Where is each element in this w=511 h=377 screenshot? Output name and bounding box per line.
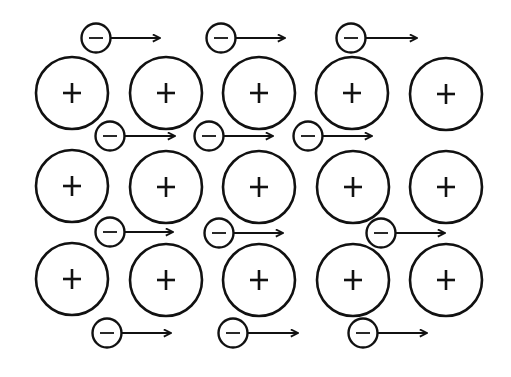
positive-ion — [36, 243, 108, 315]
positive-ion — [130, 244, 202, 316]
positive-ion — [130, 57, 202, 129]
positive-ion — [130, 151, 202, 223]
electron — [82, 24, 161, 53]
electron — [294, 122, 373, 151]
positive-ion — [317, 244, 389, 316]
electron — [205, 219, 284, 248]
positive-ion — [36, 57, 108, 129]
positive-ion — [223, 151, 295, 223]
positive-ion — [316, 57, 388, 129]
positive-ion — [36, 150, 108, 222]
positive-ion — [223, 244, 295, 316]
positive-ion — [410, 151, 482, 223]
positive-ion — [223, 57, 295, 129]
electron — [219, 319, 299, 348]
electron — [93, 319, 172, 348]
electron — [367, 219, 446, 248]
electron — [96, 122, 176, 151]
positive-ions — [36, 57, 482, 316]
positive-ion — [317, 151, 389, 223]
electron — [337, 24, 418, 53]
positive-ion — [410, 244, 482, 316]
electron — [349, 319, 428, 348]
metal-lattice-diagram — [0, 0, 511, 377]
positive-ion — [410, 58, 482, 130]
electron — [195, 122, 274, 151]
electron — [207, 24, 286, 53]
